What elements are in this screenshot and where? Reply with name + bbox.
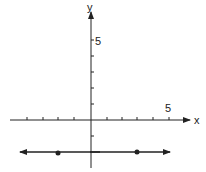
y-axis xyxy=(91,12,94,168)
x-axis-label: x xyxy=(194,114,200,126)
point-neg2-neg2 xyxy=(56,151,61,156)
y-axis-label: y xyxy=(87,1,93,13)
y-tick-label-5: 5 xyxy=(95,35,101,47)
point-3-neg2 xyxy=(135,150,140,155)
x-tick-label-5: 5 xyxy=(165,102,171,114)
coordinate-plane: x y 5 5 xyxy=(0,0,206,172)
x-axis xyxy=(10,117,190,120)
